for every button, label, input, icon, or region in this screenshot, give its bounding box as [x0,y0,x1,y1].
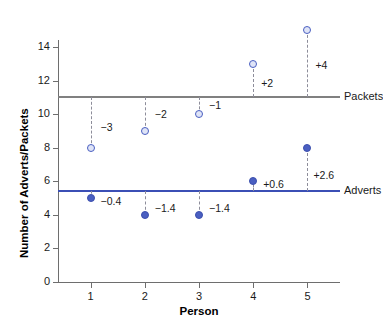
data-point-packets[interactable] [249,60,257,68]
x-tick-mark [307,283,308,288]
x-tick-label: 4 [243,291,263,302]
data-point-adverts[interactable] [303,144,311,152]
deviation-label: −1.4 [155,203,176,214]
x-axis-title: Person [99,305,299,317]
y-tick-label: 6 [28,175,50,186]
y-tick-label: 0 [28,276,50,287]
y-tick-label: 12 [28,75,50,86]
data-point-adverts[interactable] [87,194,95,202]
x-tick-label: 1 [81,291,101,302]
data-point-adverts[interactable] [195,211,203,219]
x-tick-label: 5 [297,291,317,302]
deviation-label: −0.4 [101,196,122,207]
y-tick-label: 8 [28,142,50,153]
x-tick-mark [253,283,254,288]
deviation-label: +0.6 [263,179,284,190]
y-axis-line [58,40,59,283]
data-point-packets[interactable] [87,144,95,152]
reference-line-label-packets: Packets [344,91,383,102]
x-tick-mark [91,283,92,288]
y-tick-mark [53,47,58,48]
deviation-dashed-line [91,97,92,147]
x-tick-mark [199,283,200,288]
x-tick-label: 2 [135,291,155,302]
y-tick-label: 2 [28,242,50,253]
y-tick-label: 4 [28,209,50,220]
y-tick-label: 14 [28,41,50,52]
data-point-packets[interactable] [303,26,311,34]
y-tick-mark [53,215,58,216]
y-tick-mark [53,114,58,115]
y-tick-mark [53,181,58,182]
x-tick-mark [145,283,146,288]
data-point-packets[interactable] [141,127,149,135]
deviation-label: +4 [315,60,327,71]
deviation-label: −3 [101,122,113,133]
y-tick-mark [53,148,58,149]
deviation-dashed-line [307,148,308,192]
y-tick-label: 10 [28,108,50,119]
y-tick-mark [53,81,58,82]
deviation-label: −1.4 [209,203,230,214]
data-point-packets[interactable] [195,110,203,118]
deviation-dashed-line [307,30,308,97]
y-tick-mark [53,282,58,283]
deviation-dashed-line [253,64,254,98]
deviation-label: −1 [209,100,221,111]
deviation-dashed-line [145,97,146,131]
data-point-adverts[interactable] [249,177,257,185]
deviation-label: +2 [261,78,273,89]
deviation-label: −2 [155,109,167,120]
deviation-label: +2.6 [313,170,334,181]
y-tick-mark [53,248,58,249]
reference-line-label-adverts: Adverts [344,185,381,196]
x-tick-label: 3 [189,291,209,302]
data-point-adverts[interactable] [141,211,149,219]
